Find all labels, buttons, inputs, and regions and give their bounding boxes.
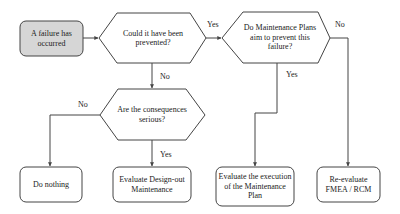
node-start: A failure has occurred <box>22 21 81 56</box>
node-re-evaluate: Re-evaluate FMEA / RCM <box>322 167 375 202</box>
edge-label-plans-no: No <box>335 20 345 29</box>
edge-label-prevented-yes: Yes <box>207 20 219 29</box>
edge-label-serious-no: No <box>78 100 88 109</box>
edge-label-plans-yes: Yes <box>286 70 298 79</box>
node-eval-plan: Evaluate the execution of the Maintenanc… <box>217 167 293 206</box>
node-q-plans: Do Maintenance Plans aim to prevent this… <box>240 12 320 63</box>
edge-plans-no <box>330 38 348 166</box>
node-q-serious: Are the consequences serious? <box>117 89 187 140</box>
edge-plans-yes <box>255 63 277 166</box>
node-q-prevented: Could it have been prevented? <box>115 13 191 63</box>
node-do-nothing: Do nothing <box>20 167 82 202</box>
node-design-out: Evaluate Design-out Maintenance <box>115 167 189 202</box>
edge-serious-no <box>50 115 100 166</box>
edge-label-serious-yes: Yes <box>160 150 172 159</box>
edge-label-prevented-no: No <box>160 72 170 81</box>
